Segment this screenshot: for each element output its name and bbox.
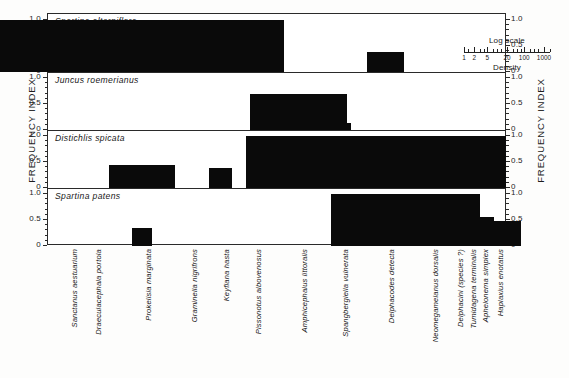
- y-minor-tick-mark: [506, 209, 509, 210]
- log-scale-tick-label: 1: [462, 54, 466, 61]
- y-minor-tick-mark: [506, 198, 509, 199]
- log-scale-tick: [474, 47, 475, 53]
- y-tick-label-left: 1.0: [21, 188, 41, 197]
- y-tick-label-left: 0.5: [21, 214, 41, 223]
- y-tick-mark: [506, 193, 510, 194]
- y-minor-tick-mark: [506, 119, 509, 120]
- y-minor-tick-mark: [506, 24, 509, 25]
- y-minor-tick-mark: [506, 182, 509, 183]
- bar: [493, 162, 496, 188]
- y-tick-label-right: 1.0: [511, 188, 533, 197]
- y-minor-tick-mark: [506, 113, 509, 114]
- log-scale-minor-tick: [538, 49, 539, 52]
- bar: [132, 228, 152, 246]
- y-minor-tick-mark: [506, 145, 509, 146]
- x-axis-label: Aphelonema simplex: [481, 249, 490, 322]
- panel-bars: [48, 73, 505, 130]
- panel-spartina-alterniflora: Spartina alterniflora: [48, 14, 505, 72]
- y-tick-label-right: 1.0: [511, 14, 533, 23]
- y-minor-tick-mark: [506, 156, 509, 157]
- y-minor-tick-mark: [506, 151, 509, 152]
- y-tick-mark: [506, 219, 510, 220]
- log-scale-minor-tick: [501, 49, 502, 52]
- y-tick-label-right: 1.0: [511, 72, 533, 81]
- log-scale-ruler: [462, 47, 552, 54]
- log-scale-tick: [487, 47, 488, 53]
- panel-distichlis-spicata: Distichlis spicata: [48, 130, 505, 188]
- plot-frame: Spartina alterniflora Juncus roemerianus…: [47, 13, 506, 245]
- x-axis-label: Tumidagena terminalis: [469, 249, 478, 328]
- y-tick-label-right: 1.0: [511, 130, 533, 139]
- y-minor-tick-mark: [506, 29, 509, 30]
- log-scale-minor-tick: [468, 49, 469, 52]
- bar: [109, 165, 174, 188]
- log-scale-tick-label: 2: [473, 54, 477, 61]
- y-tick-label-left: 1.0: [21, 130, 41, 139]
- log-scale-tick-label: 20: [503, 54, 510, 61]
- log-scale-tick-labels: 125201001000: [462, 54, 552, 63]
- y-minor-tick-mark: [506, 203, 509, 204]
- y-minor-tick-mark: [506, 177, 509, 178]
- y-minor-tick-mark: [506, 82, 509, 83]
- y-tick-mark: [506, 129, 510, 130]
- y-tick-label-right: 0.5: [511, 156, 533, 165]
- x-axis-label: Haplaxius enotatus: [496, 249, 505, 316]
- x-axis-label: Pissonotus albovenosus: [254, 249, 263, 334]
- log-scale-tick: [524, 47, 525, 53]
- bar: [468, 159, 491, 188]
- x-axis-label: Neomegamelanus dorsalis: [431, 249, 440, 342]
- y-tick-label-right: 0.5: [511, 98, 533, 107]
- log-scale-minor-tick: [550, 49, 551, 52]
- x-axis-labels: Sanctanus aestuariumDraeculacephala port…: [47, 247, 506, 378]
- panel-bars: [48, 14, 505, 72]
- panel-bars: [48, 131, 505, 188]
- bar: [209, 168, 232, 188]
- density-caption: Density: [462, 63, 552, 72]
- x-axis-label: Prokelisia marginata: [144, 249, 153, 321]
- log-scale-minor-tick: [513, 49, 514, 52]
- y-tick-mark: [506, 77, 510, 78]
- y-minor-tick-mark: [506, 87, 509, 88]
- figure-container: FREQUENCY INDEX FREQUENCY INDEX 1.01.00.…: [0, 0, 569, 378]
- bar: [328, 123, 351, 130]
- log-scale-minor-tick: [534, 49, 535, 52]
- log-scale-minor-tick: [521, 49, 522, 52]
- log-scale-tick-label: 100: [519, 54, 530, 61]
- log-scale-tick: [507, 47, 508, 53]
- y-minor-tick-mark: [506, 124, 509, 125]
- y-minor-tick-mark: [506, 166, 509, 167]
- panel-bars: [48, 189, 505, 246]
- y-minor-tick-mark: [506, 108, 509, 109]
- x-axis-label: Keyflana hasta: [222, 249, 231, 301]
- log-scale-minor-tick: [530, 49, 531, 52]
- log-scale-legend: Log scale 125201001000 Density: [462, 36, 552, 72]
- bar: [467, 221, 521, 246]
- y-tick-mark: [506, 161, 510, 162]
- panel-juncus-roemerianus: Juncus roemerianus: [48, 72, 505, 130]
- y-tick-mark: [506, 135, 510, 136]
- y-tick-mark: [506, 19, 510, 20]
- bar: [367, 52, 404, 72]
- y-tick-label-left: 0: [21, 240, 41, 249]
- x-axis-label: Spangbergiella vulnerata: [341, 249, 350, 337]
- log-scale-tick: [464, 47, 465, 53]
- bar: [0, 20, 284, 72]
- y-minor-tick-mark: [506, 171, 509, 172]
- x-axis-label: Draeculacephala portola: [94, 249, 103, 335]
- x-axis-label: Sanctanus aestuarium: [70, 249, 79, 328]
- x-axis-label: Delphacodes detecta: [387, 249, 396, 323]
- y-tick-mark: [506, 187, 510, 188]
- log-scale-minor-tick: [493, 49, 494, 52]
- y-minor-tick-mark: [506, 140, 509, 141]
- log-scale-tick-label: 1000: [537, 54, 551, 61]
- log-scale-title: Log scale: [462, 36, 552, 45]
- y-tick-mark: [506, 103, 510, 104]
- log-scale-minor-tick: [484, 49, 485, 52]
- log-scale-minor-tick: [480, 49, 481, 52]
- y-minor-tick-mark: [506, 98, 509, 99]
- x-axis-label: Amphicephalus littoralis: [300, 249, 309, 332]
- y-minor-tick-mark: [506, 93, 509, 94]
- x-axis-label: Delphacini (species ?): [456, 249, 465, 327]
- log-scale-minor-tick: [497, 49, 498, 52]
- log-scale-tick: [544, 47, 545, 53]
